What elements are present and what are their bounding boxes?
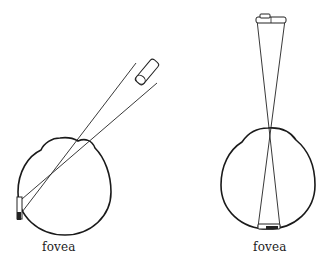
eye-diagram (0, 0, 334, 262)
left-fovea-label: fovea (42, 240, 76, 254)
right-eye (221, 14, 315, 229)
left-ray-upper (19, 63, 136, 216)
right-ray-right (258, 20, 285, 227)
right-ray-left (257, 20, 280, 227)
left-eyeball-outline (18, 138, 111, 235)
right-object (256, 14, 286, 23)
left-eye (17, 58, 160, 235)
right-retinal-image (258, 224, 280, 229)
right-fovea-label: fovea (253, 240, 287, 254)
right-eyeball-outline (221, 128, 315, 229)
left-object (134, 58, 160, 86)
left-retinal-image (17, 197, 22, 220)
left-ray-lower (22, 83, 157, 199)
